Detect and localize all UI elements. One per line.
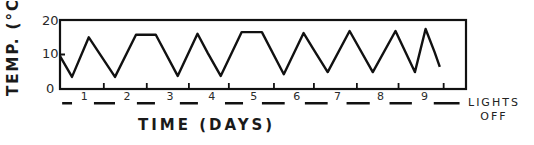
x-day-label: 6 bbox=[293, 90, 300, 103]
off-label: OFF bbox=[468, 110, 520, 124]
lights-off-bars bbox=[62, 102, 459, 105]
y-tick-20: 20 bbox=[42, 13, 59, 28]
x-day-label: 5 bbox=[250, 90, 257, 103]
lights-off-legend: LIGHTS OFF bbox=[468, 96, 520, 124]
x-day-label: 7 bbox=[334, 90, 341, 103]
y-axis-label: TEMP. (°C) bbox=[4, 0, 22, 96]
plot-frame bbox=[60, 20, 466, 89]
x-axis-label: TIME (DAYS) bbox=[138, 116, 275, 134]
x-day-label: 8 bbox=[377, 90, 384, 103]
lights-off-bar bbox=[137, 102, 155, 105]
temperature-line bbox=[60, 29, 440, 77]
y-tick-10: 10 bbox=[42, 46, 59, 61]
y-tick-0: 0 bbox=[46, 81, 54, 96]
lights-off-bar bbox=[62, 102, 72, 105]
x-day-label: 2 bbox=[124, 90, 131, 103]
lights-label: LIGHTS bbox=[468, 96, 520, 110]
lights-off-bar bbox=[94, 102, 115, 105]
x-day-label: 4 bbox=[208, 90, 215, 103]
lights-off-bar bbox=[180, 102, 198, 105]
lights-off-bar bbox=[305, 102, 328, 105]
x-day-label: 1 bbox=[81, 90, 88, 103]
lights-off-bar bbox=[225, 102, 243, 105]
x-day-label: 9 bbox=[421, 90, 428, 103]
lights-off-bar bbox=[434, 102, 460, 105]
lights-off-bar bbox=[390, 102, 412, 105]
x-day-label: 3 bbox=[167, 90, 174, 103]
lights-off-bar bbox=[262, 102, 285, 105]
lights-off-bar bbox=[347, 102, 370, 105]
